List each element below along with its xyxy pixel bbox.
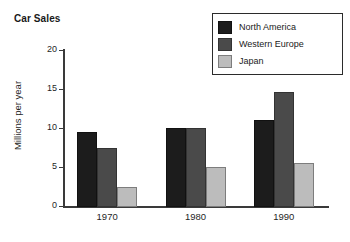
y-axis-title: Millions per year — [12, 56, 23, 176]
bar-japan-1980 — [206, 167, 226, 207]
legend-label: Japan — [239, 57, 264, 66]
legend-item: Western Europe — [218, 36, 337, 52]
legend-item: North America — [218, 19, 337, 35]
bar-japan-1990 — [294, 163, 314, 207]
chart-title: Car Sales — [14, 13, 61, 24]
x-tick-label: 1970 — [82, 211, 132, 222]
x-tick-label: 1980 — [171, 211, 221, 222]
bar-north-america-1990 — [254, 120, 274, 207]
y-tick-label: 20 — [47, 45, 57, 54]
legend-item: Japan — [218, 53, 337, 69]
x-tick-label: 1990 — [259, 211, 309, 222]
legend-swatch-western-europe-icon — [218, 38, 232, 51]
bar-western-europe-1980 — [186, 128, 206, 207]
bar-western-europe-1970 — [97, 148, 117, 207]
bar-chart-figure: Car Sales Millions per year 20 15 10 5 0… — [0, 0, 350, 242]
bar-western-europe-1990 — [274, 92, 294, 207]
legend-swatch-north-america-icon — [218, 21, 232, 34]
legend-box: North America Western Europe Japan — [212, 13, 343, 75]
y-tick-label: 0 — [52, 201, 57, 210]
bar-japan-1970 — [117, 187, 137, 207]
y-tick-label: 5 — [52, 162, 57, 171]
legend-label: Western Europe — [239, 40, 304, 49]
y-tick-label: 15 — [47, 84, 57, 93]
legend-label: North America — [239, 23, 296, 32]
bar-north-america-1980 — [166, 128, 186, 207]
y-tick-label: 10 — [47, 123, 57, 132]
bar-north-america-1970 — [77, 132, 97, 207]
legend-swatch-japan-icon — [218, 55, 232, 68]
